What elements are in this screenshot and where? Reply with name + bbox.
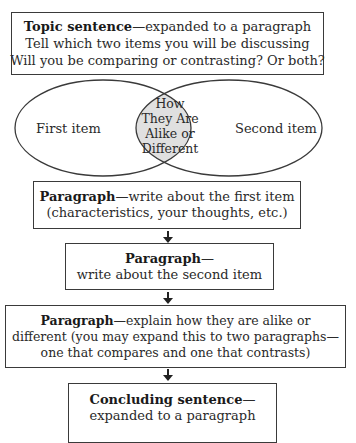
down-arrow-icon — [163, 369, 173, 381]
second-paragraph-line-1: Paragraph— — [125, 251, 214, 267]
overlap-line-4: Different — [140, 141, 200, 156]
first-paragraph-line-1: Paragraph—write about the first item — [40, 189, 295, 205]
topic-bold-label: Topic sentence — [24, 19, 132, 34]
second-paragraph-bold-label: Paragraph — [125, 251, 201, 266]
overlap-line-2: They Are — [140, 111, 200, 126]
second-paragraph-text: — — [201, 251, 214, 266]
alike-paragraph-line-2: different (you may expand this to two pa… — [12, 329, 339, 345]
alike-paragraph-line-1: Paragraph—explain how they are alike or — [41, 313, 311, 329]
overlap-line-1: How — [140, 96, 200, 111]
first-paragraph-line-2: (characteristics, your thoughts, etc.) — [46, 205, 287, 221]
topic-line-2: Tell which two items you will be discuss… — [25, 35, 309, 52]
venn-overlap-label: How They Are Alike or Different — [140, 96, 200, 156]
venn-first-item-label: First item — [36, 121, 101, 136]
second-paragraph-line-2: write about the second item — [77, 267, 262, 283]
topic-line-3: Will you be comparing or contrasting? Or… — [10, 52, 325, 69]
topic-line-1: Topic sentence—expanded to a paragraph — [24, 18, 311, 35]
topic-text: —expanded to a paragraph — [132, 19, 311, 34]
venn-second-item-label: Second item — [235, 121, 317, 136]
down-arrow-icon — [163, 292, 173, 304]
down-arrow-icon — [163, 231, 173, 243]
first-item-paragraph-box: Paragraph—write about the first item (ch… — [33, 181, 301, 229]
concluding-line-1: Concluding sentence— — [90, 392, 256, 408]
alike-or-different-paragraph-box: Paragraph—explain how they are alike or … — [5, 305, 346, 368]
concluding-text: — — [242, 392, 255, 407]
alike-paragraph-bold-label: Paragraph — [41, 313, 114, 328]
topic-sentence-box: Topic sentence—expanded to a paragraph T… — [11, 12, 324, 75]
concluding-bold-label: Concluding sentence — [90, 392, 243, 407]
concluding-sentence-box: Concluding sentence— expanded to a parag… — [68, 383, 277, 443]
first-paragraph-text: —write about the first item — [116, 189, 295, 204]
alike-paragraph-line-3: one that compares and one that contrasts… — [41, 345, 311, 361]
alike-paragraph-text: —explain how they are alike or — [114, 313, 311, 328]
second-item-paragraph-box: Paragraph— write about the second item — [65, 243, 274, 290]
first-paragraph-bold-label: Paragraph — [40, 189, 116, 204]
concluding-line-2: expanded to a paragraph — [89, 408, 255, 424]
overlap-line-3: Alike or — [140, 126, 200, 141]
